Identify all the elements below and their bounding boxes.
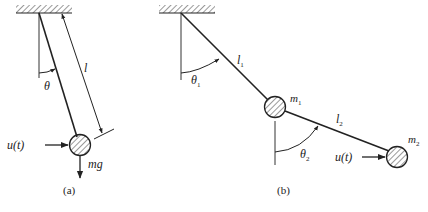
ceiling-support-icon [159,5,215,13]
force-label-b: u(t) [335,150,352,164]
angle-1-label: θ1 [191,73,201,89]
caption-b: (b) [277,184,290,197]
mass-2-label: m2 [408,133,420,148]
weight-label: mg [88,157,103,171]
angle-arc-1-icon [181,59,219,73]
length-1-label: l1 [237,53,244,69]
pendulum-figure: θ l u(t) mg (a) θ1 l1 [0,0,428,212]
panel-a-single-pendulum: θ l u(t) mg (a) [7,5,114,197]
mass-1-bob [265,97,286,118]
caption-a: (a) [63,184,76,197]
mass-2-bob [387,147,408,168]
mass-1-label: m1 [290,92,302,107]
length-dimension-line [62,14,102,133]
angle-label: θ [44,79,50,93]
angle-arc-icon [39,69,55,73]
force-label: u(t) [7,138,24,152]
pendulum-rod [39,13,77,137]
length-label: l [84,61,88,75]
angle-arc-2-icon [275,126,318,152]
angle-2-label: θ2 [300,147,310,163]
ceiling-support-icon [16,5,72,13]
panel-b-double-pendulum: θ1 l1 m1 θ2 l2 m2 u(t) (b) [159,5,420,197]
length-2-label: l2 [336,112,343,128]
dimension-tick [94,129,114,139]
pendulum-bob [70,135,91,156]
